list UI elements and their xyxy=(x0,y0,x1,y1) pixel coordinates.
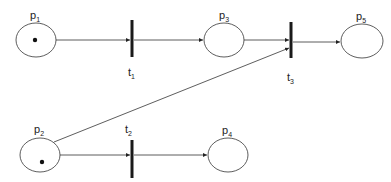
place-circle xyxy=(204,23,244,57)
place-label-p1: p1 xyxy=(30,9,40,23)
token-dot-icon xyxy=(40,160,44,164)
place-p5: p5 xyxy=(341,10,383,58)
petri-net-diagram: p1p2p3p4p5 t1t2t3 xyxy=(0,0,391,182)
place-p3: p3 xyxy=(204,9,244,57)
place-circle xyxy=(341,24,383,58)
token-dot-icon xyxy=(33,38,37,42)
place-label-p5: p5 xyxy=(356,10,366,24)
place-label-p3: p3 xyxy=(219,9,229,23)
transition-t1: t1 xyxy=(128,20,135,80)
transition-label-t2: t2 xyxy=(125,123,132,137)
place-p2: p2 xyxy=(20,123,60,172)
places-group: p1p2p3p4p5 xyxy=(16,9,383,172)
arcs-group xyxy=(54,40,340,155)
transition-t2: t2 xyxy=(125,123,132,178)
transition-t3: t3 xyxy=(287,22,294,85)
arc-p2-to-t3 xyxy=(54,48,289,142)
place-p1: p1 xyxy=(16,9,56,57)
place-label-p2: p2 xyxy=(34,123,44,137)
place-circle xyxy=(208,138,248,172)
place-p4: p4 xyxy=(208,124,248,172)
transition-label-t1: t1 xyxy=(128,66,135,80)
place-label-p4: p4 xyxy=(222,124,232,138)
place-circle xyxy=(20,138,60,172)
transition-label-t3: t3 xyxy=(287,71,294,85)
